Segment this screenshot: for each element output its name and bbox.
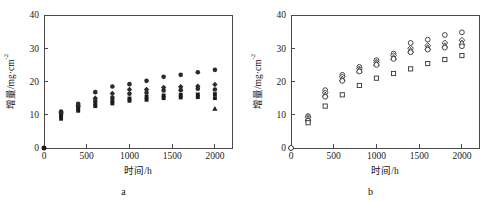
x-tick-label: 2000 xyxy=(452,151,471,161)
x-tick-label: 1000 xyxy=(120,151,139,161)
data-point-circle xyxy=(425,37,430,42)
data-point-square xyxy=(213,92,217,96)
data-point-circle xyxy=(425,47,430,52)
data-point-circle xyxy=(178,88,183,93)
data-point-circle xyxy=(161,88,166,93)
data-point-circle xyxy=(340,78,345,83)
data-point-square xyxy=(409,67,413,71)
x-tick-label: 500 xyxy=(327,151,342,161)
x-tick-label: 0 xyxy=(289,151,294,161)
data-point-diamond xyxy=(212,82,217,87)
data-point-circle xyxy=(408,41,413,46)
y-tick-label: 40 xyxy=(30,10,40,20)
y-axis-title: 增量/mg·cm-2 xyxy=(249,54,264,109)
data-point-square xyxy=(391,71,395,75)
y-tick-label: 0 xyxy=(281,143,286,153)
y-tick-label: 30 xyxy=(277,44,287,54)
y-axis-title: 增量/mg·cm-2 xyxy=(2,54,17,109)
data-point-circle xyxy=(391,56,396,61)
panel-caption-a: a xyxy=(0,186,247,197)
y-tick-label: 40 xyxy=(277,10,287,20)
data-point-square xyxy=(443,57,447,61)
data-point-circle xyxy=(408,50,413,55)
panel-caption-b: b xyxy=(247,186,494,197)
data-point-diamond xyxy=(127,87,132,92)
data-point-square xyxy=(128,99,132,103)
data-point-circle xyxy=(196,87,201,92)
data-point-square xyxy=(42,146,46,150)
x-tick-label: 1000 xyxy=(367,151,386,161)
data-point-circle xyxy=(144,79,149,84)
data-point-circle xyxy=(213,87,218,92)
plot-frame xyxy=(291,15,479,148)
data-point-circle xyxy=(357,69,362,74)
data-point-square xyxy=(340,93,344,97)
data-point-circle xyxy=(144,91,149,96)
data-point-square xyxy=(162,96,166,100)
data-point-circle xyxy=(161,75,166,80)
data-point-square xyxy=(145,98,149,102)
data-point-square xyxy=(323,104,327,108)
y-tick-label: 20 xyxy=(277,77,287,87)
data-point-circle xyxy=(323,94,328,99)
x-axis-title: 时间/h xyxy=(371,165,399,176)
data-point-square xyxy=(93,104,97,108)
data-series-group xyxy=(41,68,217,151)
x-tick-label: 2000 xyxy=(205,151,224,161)
chart-panel-a: 0500100015002000010203040时间/h增量/mg·cm-2 … xyxy=(0,0,247,203)
data-point-circle xyxy=(178,73,183,78)
chart-panel-b: 0500100015002000010203040时间/h增量/mg·cm-2 … xyxy=(247,0,494,203)
x-tick-label: 500 xyxy=(80,151,95,161)
data-point-triangle xyxy=(212,106,217,111)
data-point-circle xyxy=(93,90,98,95)
x-tick-label: 1500 xyxy=(410,151,429,161)
data-series-group xyxy=(288,30,465,151)
data-point-square xyxy=(357,83,361,87)
data-point-circle xyxy=(442,33,447,38)
scatter-plot-a: 0500100015002000010203040时间/h增量/mg·cm-2 xyxy=(0,0,247,180)
figure-container: 0500100015002000010203040时间/h增量/mg·cm-2 … xyxy=(0,0,494,203)
data-point-circle xyxy=(460,44,465,49)
x-axis-title: 时间/h xyxy=(124,165,152,176)
data-point-circle xyxy=(213,68,218,73)
x-tick-label: 1500 xyxy=(163,151,182,161)
data-point-square xyxy=(426,61,430,65)
y-tick-label: 10 xyxy=(30,110,40,120)
y-tick-label: 20 xyxy=(30,77,40,87)
data-point-square xyxy=(196,95,200,99)
data-point-circle xyxy=(110,84,115,89)
data-point-square xyxy=(213,96,217,100)
data-point-circle xyxy=(127,82,132,87)
data-point-square xyxy=(306,121,310,125)
x-tick-label: 0 xyxy=(42,151,47,161)
plot-frame xyxy=(44,15,232,148)
data-point-square xyxy=(76,109,80,113)
scatter-plot-b: 0500100015002000010203040时间/h增量/mg·cm-2 xyxy=(247,0,494,180)
data-point-square xyxy=(179,96,183,100)
data-point-circle xyxy=(196,70,201,75)
data-point-circle xyxy=(374,62,379,67)
data-point-circle xyxy=(127,92,132,97)
y-tick-label: 30 xyxy=(30,44,40,54)
data-point-square xyxy=(59,117,63,121)
y-tick-label: 0 xyxy=(34,143,39,153)
data-point-circle xyxy=(460,30,465,35)
data-point-square xyxy=(110,101,114,105)
y-tick-label: 10 xyxy=(277,110,287,120)
data-point-square xyxy=(460,53,464,57)
data-point-circle xyxy=(442,45,447,50)
data-point-square xyxy=(374,76,378,80)
